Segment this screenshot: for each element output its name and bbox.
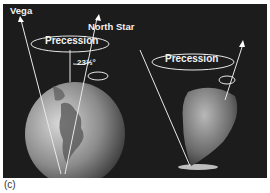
vega-arrow-icon	[18, 16, 24, 22]
precession-illustration	[3, 4, 267, 178]
precession-label-right: Precession	[165, 53, 218, 64]
top-axis-arrow-icon	[239, 40, 245, 47]
figure-panel: Vega North Star Precession 23½° Precessi…	[3, 4, 267, 178]
precession-label-left: Precession	[45, 35, 98, 46]
earth-globe	[25, 82, 125, 178]
figure-caption: (c)	[4, 179, 16, 190]
north-star-arrow-icon	[95, 14, 101, 21]
tilt-angle-label: 23½°	[77, 58, 96, 67]
vega-label: Vega	[10, 5, 32, 16]
north-star-label: North Star	[88, 21, 134, 32]
